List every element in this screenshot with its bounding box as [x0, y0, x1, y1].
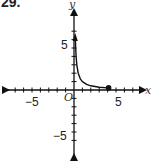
origin-label: O [64, 91, 73, 104]
function-curve [75, 37, 107, 88]
y-tick-label-pos5: 5 [61, 38, 68, 52]
x-axis-label: x [145, 84, 152, 97]
x-tick-label-pos5: 5 [115, 95, 122, 109]
y-tick-label-neg5: −5 [53, 129, 67, 143]
y-axis-label: y [68, 0, 76, 11]
x-tick-label-neg5: −5 [25, 95, 39, 109]
closed-endpoint-dot [106, 85, 112, 91]
coordinate-plane: y x O −5 5 5 −5 [0, 0, 153, 161]
